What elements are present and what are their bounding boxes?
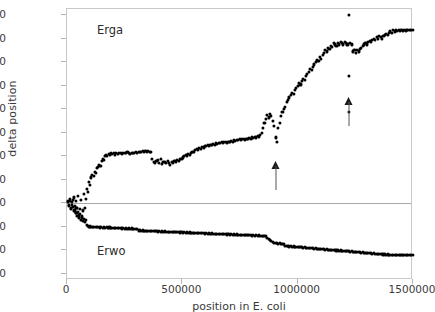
data-point	[350, 43, 353, 46]
data-point	[149, 151, 152, 154]
y-tick-label: 11000	[0, 55, 6, 67]
data-point	[271, 119, 274, 122]
data-point	[278, 122, 281, 125]
y-tick-label: 9000	[0, 79, 6, 91]
data-point	[82, 192, 85, 195]
series-label-erga: Erga	[97, 23, 123, 37]
data-point	[94, 171, 97, 174]
arrow-right-icon	[344, 97, 353, 126]
y-tick-label: 3000	[0, 149, 6, 161]
x-tick-label: 500000	[161, 283, 201, 295]
data-point	[86, 190, 89, 193]
data-point	[102, 158, 105, 161]
data-point	[292, 92, 295, 95]
x-tick-label: 1000000	[273, 283, 320, 295]
data-point	[347, 13, 350, 16]
data-point	[275, 141, 278, 144]
data-point	[99, 164, 102, 167]
data-point	[280, 115, 283, 118]
data-point	[80, 198, 83, 201]
arrow-left-icon	[271, 161, 280, 190]
y-tick-label: -5000	[0, 267, 6, 279]
arrow-shaft	[348, 102, 349, 126]
data-point	[92, 175, 95, 178]
data-point	[77, 195, 80, 198]
x-tick-label: 0	[63, 283, 70, 295]
data-point	[347, 75, 350, 78]
x-tick-mark	[412, 279, 413, 284]
x-tick-mark	[181, 279, 182, 284]
y-tick-label: 13000	[0, 32, 6, 44]
data-point	[74, 199, 77, 202]
series-label-erwo: Erwo	[97, 244, 125, 258]
data-point	[411, 29, 414, 32]
x-tick-mark	[66, 279, 67, 284]
x-tick-mark	[297, 279, 298, 284]
data-point	[83, 207, 86, 210]
data-point	[84, 197, 87, 200]
plot-area: ErgaErwo	[66, 8, 412, 279]
y-tick-label: 7000	[0, 102, 6, 114]
y-tick-label: 1000	[0, 173, 6, 185]
data-point	[84, 218, 87, 221]
y-tick-label: -1000	[0, 220, 6, 232]
data-point	[320, 57, 323, 60]
data-point	[263, 122, 266, 125]
x-tick-label: 1500000	[389, 283, 435, 295]
data-point	[273, 124, 276, 127]
data-point	[262, 126, 265, 129]
data-point	[277, 126, 280, 129]
y-axis-title: delta position	[6, 59, 19, 179]
x-axis-title: position in E. coli	[66, 300, 412, 312]
data-point	[310, 69, 313, 72]
data-point	[260, 131, 263, 134]
zero-reference-line	[67, 203, 411, 204]
data-point	[411, 254, 414, 257]
data-point	[159, 157, 162, 160]
arrow-shaft	[275, 166, 276, 190]
data-point	[303, 78, 306, 81]
data-point	[284, 105, 287, 108]
data-point	[270, 115, 273, 118]
y-tick-label: 15000	[0, 8, 6, 20]
y-tick-label: 5000	[0, 126, 6, 138]
data-point	[89, 183, 92, 186]
data-point	[274, 136, 277, 139]
y-tick-label: 0	[0, 196, 6, 208]
y-tick-label: -3000	[0, 243, 6, 255]
data-point	[299, 83, 302, 86]
